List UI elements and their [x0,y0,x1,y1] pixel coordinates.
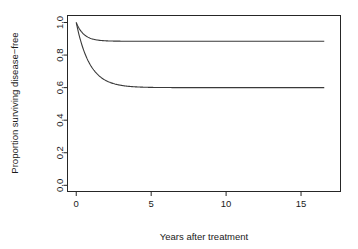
x-tick-label: 10 [221,198,232,209]
y-tick-label: 1.0 [55,16,66,29]
figure-container: 0.00.20.40.60.81.0 051015 Years after tr… [0,0,358,249]
y-tick-label: 0.2 [55,146,66,159]
survival-plot: 0.00.20.40.60.81.0 051015 Years after tr… [0,0,358,249]
x-tick-label: 0 [74,198,79,209]
x-tick-label: 5 [149,198,154,209]
x-tick-label: 15 [296,198,307,209]
x-axis-title: Years after treatment [160,231,249,242]
y-tick-label: 0.0 [55,179,66,192]
y-tick-label: 0.6 [55,81,66,94]
y-tick-label: 0.8 [55,48,66,61]
y-axis-title: Proportion surviving disease−free [9,32,20,173]
y-tick-label: 0.4 [55,114,66,127]
